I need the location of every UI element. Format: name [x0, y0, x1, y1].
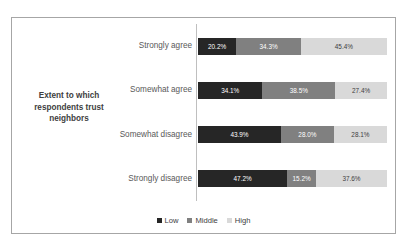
bar-segment-high-3: 37.6% [316, 170, 387, 187]
category-label-2: Somewhat disagree [72, 130, 192, 140]
bar-segment-middle-3: 15.2% [287, 170, 316, 187]
bar-segment-middle-0: 34.3% [236, 38, 301, 55]
legend-swatch-icon-high [227, 218, 232, 223]
stacked-bar-0: 20.2% 34.3% 45.4% [198, 38, 387, 55]
bar-segment-low-3: 47.2% [198, 170, 287, 187]
chart-frame: Extent to which respondents trust neighb… [11, 17, 396, 234]
chart-legend: Low Middle High [12, 216, 395, 225]
bar-segment-middle-1: 38.5% [262, 82, 335, 99]
stacked-bar-3: 47.2% 15.2% 37.6% [198, 170, 387, 187]
bar-segment-low-1: 34.1% [198, 82, 262, 99]
legend-item-high: High [227, 216, 251, 225]
table-row: Strongly disagree 47.2% 15.2% 37.6% [12, 157, 395, 201]
legend-swatch-icon-middle [187, 218, 192, 223]
legend-label-middle: Middle [195, 216, 217, 225]
bar-segment-high-0: 45.4% [301, 38, 387, 55]
bar-segment-low-2: 43.9% [198, 126, 281, 143]
stacked-bar-2: 43.9% 28.0% 28.1% [198, 126, 387, 143]
legend-label-low: Low [165, 216, 179, 225]
stacked-bar-1: 34.1% 38.5% 27.4% [198, 82, 387, 99]
bars-container: Strongly agree 20.2% 34.3% 45.4% Somewha… [12, 24, 395, 201]
category-label-3: Strongly disagree [72, 174, 192, 184]
bar-segment-middle-2: 28.0% [281, 126, 334, 143]
category-label-1: Somewhat agree [72, 85, 192, 95]
plot-area: Extent to which respondents trust neighb… [12, 18, 395, 233]
bar-segment-low-0: 20.2% [198, 38, 236, 55]
legend-item-middle: Middle [187, 216, 217, 225]
table-row: Strongly agree 20.2% 34.3% 45.4% [12, 24, 395, 68]
legend-label-high: High [235, 216, 251, 225]
category-label-0: Strongly agree [72, 41, 192, 51]
bar-segment-high-2: 28.1% [334, 126, 387, 143]
legend-item-low: Low [157, 216, 179, 225]
legend-swatch-icon-low [157, 218, 162, 223]
bar-segment-high-1: 27.4% [335, 82, 387, 99]
table-row: Somewhat agree 34.1% 38.5% 27.4% [12, 68, 395, 112]
table-row: Somewhat disagree 43.9% 28.0% 28.1% [12, 113, 395, 157]
